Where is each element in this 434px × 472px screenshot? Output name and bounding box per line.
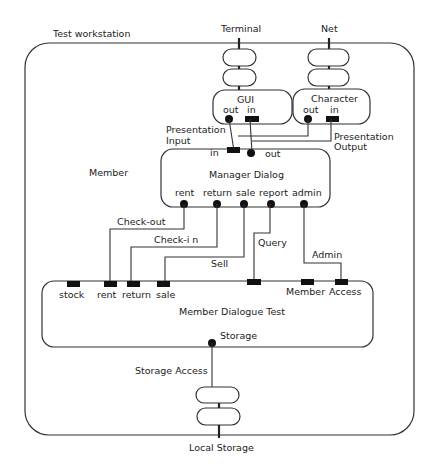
gui-in-label: in bbox=[247, 104, 256, 115]
character-label: Character bbox=[311, 93, 358, 104]
manager-port-sale-label: sale bbox=[236, 187, 255, 198]
presentation-output-label-2: Output bbox=[334, 141, 367, 152]
checkin-label: Check-i n bbox=[154, 234, 198, 245]
checkout-label: Check-out bbox=[117, 216, 166, 227]
manager-port-rent-label: rent bbox=[175, 187, 195, 198]
admin-label: Admin bbox=[312, 249, 342, 260]
manager-port-return-label: return bbox=[203, 187, 232, 198]
terminal-connector-pill-2 bbox=[223, 69, 256, 86]
terminal-connector-pill-1 bbox=[223, 49, 256, 66]
storage-connector-pill-2 bbox=[197, 408, 240, 425]
mdt-label: Member Dialogue Test bbox=[179, 306, 285, 317]
mdt-stock-port bbox=[67, 281, 80, 287]
member-label: Member bbox=[89, 167, 128, 178]
mdt-sale-port bbox=[157, 281, 170, 287]
manager-in-port bbox=[227, 147, 240, 153]
query-label: Query bbox=[258, 237, 287, 248]
gui-out-label: out bbox=[223, 104, 239, 115]
character-in-port bbox=[326, 116, 339, 122]
mdt-query-port bbox=[247, 279, 261, 285]
character-in-label: in bbox=[330, 104, 339, 115]
mdt-member-label: Member bbox=[286, 286, 325, 297]
manager-dialog-label: Manager Dialog bbox=[209, 169, 284, 180]
net-connector-pill-1 bbox=[308, 49, 349, 66]
gui-in-port bbox=[245, 116, 259, 122]
test-workstation-label: Test workstation bbox=[52, 28, 130, 39]
manager-report-port bbox=[267, 200, 275, 208]
mdt-rent-label: rent bbox=[97, 289, 117, 300]
storage-access-label: Storage Access bbox=[135, 365, 208, 376]
sell-label: Sell bbox=[211, 258, 228, 269]
mdt-return-label: return bbox=[122, 289, 151, 300]
local-storage-label: Local Storage bbox=[189, 442, 254, 453]
mdt-sale-label: sale bbox=[156, 289, 175, 300]
terminal-label: Terminal bbox=[220, 23, 261, 34]
mdt-member-port bbox=[301, 279, 314, 285]
manager-port-report-label: report bbox=[259, 187, 288, 198]
net-label: Net bbox=[321, 23, 338, 34]
component-diagram: Test workstation Terminal Net GUI out in… bbox=[0, 0, 434, 472]
manager-out-port bbox=[247, 149, 255, 157]
mdt-access-port bbox=[335, 279, 348, 285]
presentation-input-label-2: Input bbox=[166, 135, 191, 146]
presentation-input-label-1: Presentation bbox=[166, 124, 226, 135]
mdt-stock-label: stock bbox=[59, 289, 85, 300]
manager-port-admin-label: admin bbox=[292, 187, 322, 198]
mdt-return-port bbox=[127, 281, 140, 287]
mdt-storage-label: Storage bbox=[220, 330, 257, 341]
character-out-label: out bbox=[303, 104, 319, 115]
mdt-access-label: Access bbox=[329, 286, 362, 297]
storage-connector-pill-1 bbox=[196, 387, 239, 403]
mdt-rent-port bbox=[104, 281, 117, 287]
net-connector-pill-2 bbox=[308, 69, 349, 86]
manager-in-label: in bbox=[210, 147, 219, 158]
manager-out-label: out bbox=[265, 148, 281, 159]
